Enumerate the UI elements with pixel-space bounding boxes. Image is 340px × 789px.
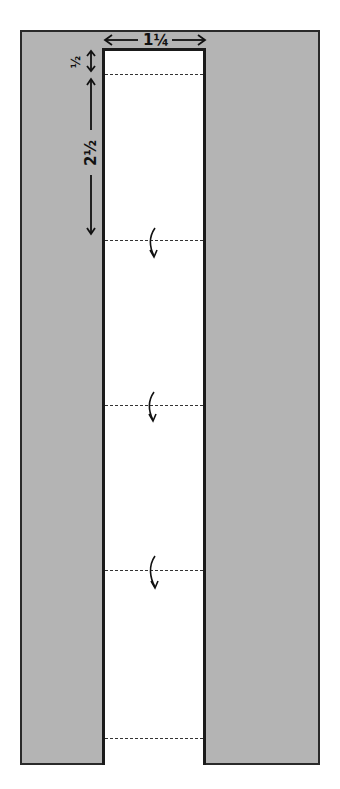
section-length-label: 2½ (82, 140, 100, 166)
fold-arrow-icon (149, 392, 156, 421)
fold-arrow-icon (150, 556, 158, 588)
half-dimension-arrow-icon (87, 51, 95, 71)
diagram-canvas: 1¼ ½ 2½ (0, 0, 340, 789)
top-margin-label: ½ (69, 56, 83, 68)
dimension-arrows (0, 0, 340, 789)
fold-arrow-icon (150, 228, 157, 257)
width-label: 1¼ (143, 31, 169, 49)
